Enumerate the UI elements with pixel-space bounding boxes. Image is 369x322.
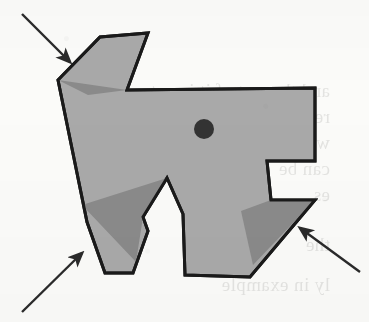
right-wedge bbox=[241, 200, 315, 265]
viewpoint-dot bbox=[194, 119, 214, 139]
figure-container: and the rest of it is not region is comp… bbox=[0, 0, 369, 322]
arrow-bottom-right bbox=[300, 228, 360, 272]
arrow-bottom-left bbox=[22, 253, 82, 312]
arrow-top-left bbox=[22, 14, 70, 62]
polygon-figure bbox=[0, 0, 369, 322]
